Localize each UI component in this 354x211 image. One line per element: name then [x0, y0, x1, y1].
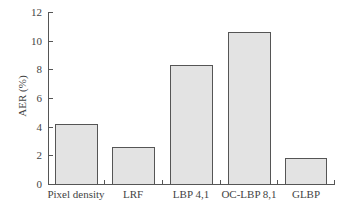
y-tick-label: 4: [24, 121, 42, 133]
y-tick-label: 2: [24, 149, 42, 161]
bar-lbp-4-1: [170, 65, 213, 184]
x-tick: [220, 180, 221, 184]
bar-chart: AER (%) 0 2 4 6 8 10 12 Pixel density LR…: [0, 0, 354, 211]
y-tick: [48, 184, 53, 185]
bar-lrf: [112, 147, 155, 184]
x-tick: [162, 180, 163, 184]
y-tick-label: 12: [24, 6, 42, 18]
y-tick: [48, 98, 53, 99]
y-tick-label: 10: [24, 35, 42, 47]
bar-glbp: [285, 158, 327, 184]
x-axis: [48, 184, 335, 185]
y-tick: [48, 155, 53, 156]
y-tick: [48, 127, 53, 128]
x-tick: [277, 180, 278, 184]
x-tick-label: LRF: [103, 188, 163, 200]
x-tick: [334, 180, 335, 184]
y-tick: [48, 41, 53, 42]
y-tick-label: 6: [24, 92, 42, 104]
y-tick-label: 8: [24, 63, 42, 75]
y-tick: [48, 69, 53, 70]
x-tick: [104, 180, 105, 184]
x-tick-label: LBP 4,1: [161, 188, 221, 200]
x-tick-label: GLBP: [276, 188, 336, 200]
x-tick-label: OC-LBP 8,1: [214, 188, 284, 200]
bar-oc-lbp-8-1: [228, 32, 271, 184]
bar-pixel-density: [55, 124, 98, 184]
y-tick: [48, 12, 53, 13]
